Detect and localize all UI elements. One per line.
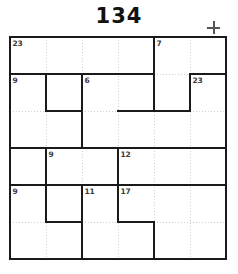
cage-border-vertical — [45, 73, 47, 112]
grid-cell[interactable] — [46, 111, 82, 148]
grid-cell[interactable] — [10, 111, 46, 148]
grid-cell[interactable] — [190, 111, 226, 148]
cage-border-vertical — [81, 73, 83, 149]
cage-border-vertical — [45, 147, 47, 223]
grid-cell[interactable] — [118, 111, 154, 148]
puzzle-container: 134 237962391291117 — [0, 0, 238, 274]
cage-border-vertical — [9, 36, 11, 260]
grid-cell[interactable] — [46, 185, 82, 222]
grid-cell[interactable] — [190, 37, 226, 74]
cage-sum-clue: 9 — [13, 188, 18, 196]
grid-cell[interactable] — [154, 74, 190, 111]
grid-cell[interactable] — [190, 185, 226, 222]
cage-sum-clue: 6 — [85, 77, 90, 85]
cage-sum-clue: 11 — [85, 188, 95, 196]
grid-cell[interactable] — [154, 148, 190, 185]
grid-cell[interactable] — [46, 74, 82, 111]
cage-border-vertical — [81, 184, 83, 260]
grid-cell[interactable] — [154, 185, 190, 222]
cage-border-horizontal — [9, 258, 227, 260]
cage-sum-clue: 23 — [13, 40, 23, 48]
grid-cell[interactable] — [190, 222, 226, 259]
cage-sum-clue: 7 — [157, 40, 162, 48]
grid-cell[interactable] — [82, 37, 118, 74]
cage-border-vertical — [153, 36, 155, 112]
plus-icon-vertical-bar — [213, 21, 215, 34]
puzzle-grid[interactable]: 237962391291117 — [10, 37, 226, 259]
grid-cell[interactable] — [46, 37, 82, 74]
cage-border-vertical — [153, 221, 155, 260]
grid-cell[interactable] — [190, 148, 226, 185]
grid-cell[interactable] — [118, 74, 154, 111]
cage-border-horizontal — [117, 221, 155, 223]
grid-cell[interactable] — [82, 222, 118, 259]
grid-cell[interactable] — [82, 111, 118, 148]
grid-cell[interactable] — [46, 222, 82, 259]
plus-icon[interactable] — [207, 21, 220, 34]
cage-sum-clue: 17 — [121, 188, 131, 196]
grid-cell[interactable] — [118, 37, 154, 74]
page-title: 134 — [0, 5, 238, 27]
cage-border-horizontal — [9, 36, 227, 38]
cage-sum-clue: 23 — [193, 77, 203, 85]
grid-cell[interactable] — [154, 222, 190, 259]
grid-cell[interactable] — [10, 148, 46, 185]
grid-cell[interactable] — [82, 148, 118, 185]
grid-cell[interactable] — [118, 222, 154, 259]
cage-border-horizontal — [45, 110, 83, 112]
cage-border-horizontal — [189, 73, 227, 75]
cage-border-vertical — [117, 147, 119, 223]
grid-cell[interactable] — [10, 222, 46, 259]
grid-cell[interactable] — [154, 111, 190, 148]
cage-sum-clue: 9 — [49, 151, 54, 159]
cage-sum-clue: 9 — [13, 77, 18, 85]
cage-border-vertical — [189, 73, 191, 112]
cage-border-horizontal — [45, 221, 83, 223]
cage-border-vertical — [225, 36, 227, 260]
cage-sum-clue: 12 — [121, 151, 131, 159]
